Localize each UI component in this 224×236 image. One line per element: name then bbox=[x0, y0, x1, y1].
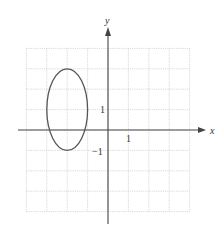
y-axis-label: y bbox=[104, 15, 110, 26]
x-axis-arrow-icon bbox=[198, 127, 206, 133]
y-axis-arrow-icon bbox=[105, 27, 111, 36]
coordinate-plane: x y 1 1 −1 bbox=[0, 0, 224, 236]
y-tick-label-neg-1: −1 bbox=[92, 146, 103, 157]
y-axis bbox=[105, 27, 111, 224]
y-tick-label-1: 1 bbox=[100, 104, 105, 115]
x-tick-label-1: 1 bbox=[126, 133, 131, 144]
x-axis-label: x bbox=[209, 125, 215, 136]
x-axis bbox=[18, 127, 206, 133]
